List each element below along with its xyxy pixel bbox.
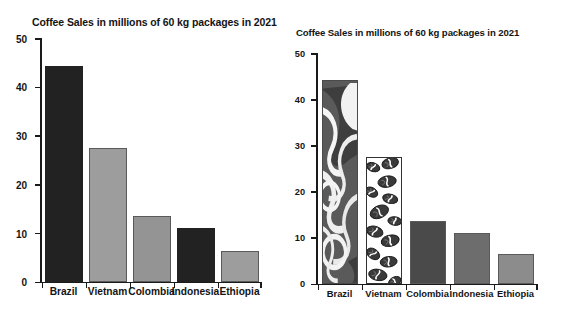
left-chart-title: Coffee Sales in millions of 60 kg packag… — [32, 16, 277, 28]
right-chart-plot-area: BrazilVietnamColombiaIndonesiaEthiopia 0… — [316, 53, 538, 285]
x-axis-tick — [536, 285, 538, 290]
y-axis-tick: 50 — [35, 38, 40, 40]
x-axis-label-brazil: Brazil — [50, 286, 78, 297]
left-chart-plot-area: BrazilVietnamColombiaIndonesiaEthiopia 0… — [40, 38, 262, 283]
bar-indonesia — [454, 233, 490, 284]
left-x-axis-labels: BrazilVietnamColombiaIndonesiaEthiopia — [40, 283, 262, 305]
bar-vietnam — [366, 157, 402, 284]
x-axis-tick — [42, 283, 44, 288]
bar-ethiopia — [221, 251, 259, 282]
y-axis-tick-label: 30 — [295, 141, 305, 151]
x-axis-tick — [130, 283, 132, 288]
y-axis-tick-label: 20 — [16, 179, 27, 190]
x-axis-tick — [218, 283, 220, 288]
x-axis-tick — [318, 285, 320, 290]
x-axis-tick — [86, 283, 88, 288]
y-axis-tick: 20 — [311, 191, 316, 193]
x-axis-tick — [174, 283, 176, 288]
right-x-axis-labels: BrazilVietnamColombiaIndonesiaEthiopia — [316, 285, 538, 307]
y-axis-tick-label: 10 — [295, 233, 305, 243]
y-axis-tick-label: 30 — [16, 131, 27, 142]
y-axis-tick: 0 — [35, 282, 40, 284]
y-axis-tick: 30 — [311, 145, 316, 147]
y-axis-tick-label: 0 — [21, 277, 27, 288]
bar-brazil — [45, 66, 83, 281]
y-axis-tick: 30 — [35, 135, 40, 137]
y-axis-tick: 50 — [311, 53, 316, 55]
y-axis-tick: 20 — [35, 184, 40, 186]
x-axis-label-vietnam: Vietnam — [88, 286, 127, 297]
right-chart-panel: Coffee Sales in millions of 60 kg packag… — [284, 0, 562, 322]
y-axis-tick-label: 50 — [295, 49, 305, 59]
y-axis-tick-label: 40 — [16, 82, 27, 93]
x-axis-label-brazil: Brazil — [327, 288, 353, 299]
x-axis-tick — [362, 285, 364, 290]
x-axis-label-ethiopia: Ethiopia — [219, 286, 259, 297]
y-axis-tick-label: 50 — [16, 33, 27, 44]
y-axis-tick: 10 — [35, 233, 40, 235]
bar-vietnam — [89, 148, 127, 282]
x-axis-tick — [406, 285, 408, 290]
y-axis-tick-label: 10 — [16, 228, 27, 239]
bar-colombia — [410, 221, 446, 283]
x-axis-tick — [260, 283, 262, 288]
x-axis-tick — [450, 285, 452, 290]
x-axis-label-indonesia: Indonesia — [172, 286, 220, 297]
x-axis-label-indonesia: Indonesia — [450, 288, 494, 299]
y-axis-tick-label: 40 — [295, 95, 305, 105]
y-axis-tick: 10 — [311, 237, 316, 239]
bar-brazil — [322, 80, 358, 284]
y-axis-tick-label: 20 — [295, 187, 305, 197]
x-axis-label-ethiopia: Ethiopia — [497, 288, 534, 299]
bar-colombia — [133, 216, 171, 282]
x-axis-label-colombia: Colombia — [406, 288, 449, 299]
right-bar-group — [318, 53, 539, 284]
x-axis-tick — [494, 285, 496, 290]
y-axis-tick-label: 0 — [300, 279, 305, 289]
y-axis-tick: 40 — [311, 99, 316, 101]
left-chart-panel: Coffee Sales in millions of 60 kg packag… — [0, 0, 284, 322]
bar-indonesia — [177, 228, 215, 282]
bar-ethiopia — [498, 254, 534, 283]
x-axis-label-colombia: Colombia — [128, 286, 174, 297]
right-chart-title: Coffee Sales in millions of 60 kg packag… — [296, 27, 519, 38]
y-axis-tick: 0 — [311, 284, 316, 286]
y-axis-tick: 40 — [35, 87, 40, 89]
x-axis-label-vietnam: Vietnam — [365, 288, 401, 299]
left-bar-group — [42, 38, 263, 282]
